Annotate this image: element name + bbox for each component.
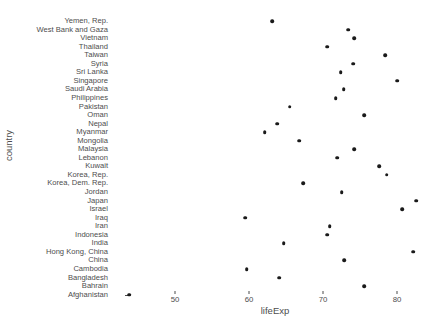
plot-panel — [112, 8, 438, 291]
x-axis-tick-label: 60 — [245, 295, 254, 304]
data-point — [270, 19, 274, 23]
data-point — [326, 45, 330, 49]
data-point — [346, 28, 350, 32]
data-point — [288, 105, 292, 109]
data-point — [340, 190, 344, 194]
y-axis-title-text: country — [4, 129, 15, 160]
y-axis-tick-label: Afghanistan — [16, 291, 108, 299]
scatter-plot: country Yemen, Rep.West Bank and GazaVie… — [0, 0, 442, 329]
data-point — [343, 259, 347, 263]
data-point — [275, 122, 279, 126]
x-axis-tick-mark — [175, 291, 176, 294]
y-axis-tick-label: Cambodia — [16, 265, 108, 273]
data-point — [352, 62, 356, 66]
y-axis-tick-label: Taiwan — [16, 51, 108, 59]
data-point — [335, 156, 339, 160]
data-point — [326, 233, 330, 237]
data-point — [363, 284, 367, 288]
y-axis-tick-label: Vietnam — [16, 34, 108, 42]
x-axis-tick-mark — [397, 291, 398, 294]
x-axis-tick-label: 70 — [319, 295, 328, 304]
data-point — [328, 224, 332, 228]
data-point — [400, 207, 404, 211]
data-point — [298, 139, 302, 143]
data-point — [282, 242, 286, 246]
data-point — [395, 79, 399, 83]
data-point — [414, 199, 418, 203]
data-point — [244, 216, 248, 220]
y-axis-tick-label: Jordan — [16, 188, 108, 196]
data-point — [363, 113, 367, 117]
data-point — [385, 173, 389, 177]
data-point — [334, 96, 338, 100]
y-axis-tick-label: Philippines — [16, 94, 108, 102]
data-point — [278, 276, 282, 280]
y-axis-tick-label: Israel — [16, 205, 108, 213]
data-point — [383, 53, 387, 57]
x-axis-tick-mark — [323, 291, 324, 294]
data-point — [263, 130, 267, 134]
y-axis-tick-label: Yemen, Rep. — [16, 17, 108, 25]
data-point — [352, 36, 356, 40]
x-axis-title: lifeExp — [112, 305, 438, 316]
x-axis-tick-mark — [249, 291, 250, 294]
data-point — [342, 88, 346, 92]
data-point — [339, 71, 343, 75]
x-axis-tick-label: 80 — [393, 295, 402, 304]
data-point — [411, 250, 415, 254]
y-axis-tick-labels: Yemen, Rep.West Bank and GazaVietnamThai… — [16, 0, 108, 300]
y-axis-tick-label: Iran — [16, 222, 108, 230]
data-point — [301, 182, 305, 186]
y-axis-tick-label: Oman — [16, 111, 108, 119]
data-point — [377, 165, 381, 169]
x-axis-tick-label: 50 — [171, 295, 180, 304]
data-point — [245, 267, 249, 271]
y-axis-tick-label: Myanmar — [16, 128, 108, 136]
data-point — [352, 147, 356, 151]
y-axis-tick-label: Bahrain — [16, 282, 108, 290]
